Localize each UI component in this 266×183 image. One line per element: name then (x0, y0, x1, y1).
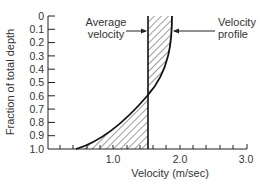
svg-text:0.2: 0.2 (29, 36, 44, 48)
svg-text:0.6: 0.6 (29, 90, 44, 102)
average-velocity-label-line2: velocity (88, 28, 125, 40)
velocity-profile-arrow (173, 29, 215, 34)
velocity-profile-label-line2: profile (218, 28, 248, 40)
svg-text:0.4: 0.4 (29, 63, 44, 75)
hatched-area-lower (76, 95, 148, 149)
svg-text:0.9: 0.9 (29, 129, 44, 141)
svg-text:1.0: 1.0 (106, 153, 121, 165)
y-tick-labels: 0 0.1 0.2 0.3 0.4 0.5 0.6 0.7 0.8 0.9 1.… (29, 10, 44, 155)
y-axis-title: Fraction of total depth (4, 29, 16, 135)
svg-text:0.7: 0.7 (29, 103, 44, 115)
x-tick-labels: 1.0 2.0 3.0 (106, 153, 254, 165)
average-velocity-arrow (126, 29, 147, 34)
svg-text:1.0: 1.0 (29, 143, 44, 155)
svg-text:0.8: 0.8 (29, 116, 44, 128)
y-axis (48, 16, 55, 149)
velocity-depth-chart: Average velocity Velocity profile 0 0.1 … (0, 0, 266, 183)
svg-text:0: 0 (38, 10, 44, 22)
svg-text:0.3: 0.3 (29, 50, 44, 62)
x-axis-title: Velocity (m/sec) (131, 167, 209, 179)
average-velocity-label-line1: Average (86, 16, 127, 28)
velocity-profile-label-line1: Velocity (218, 16, 256, 28)
svg-text:0.1: 0.1 (29, 23, 44, 35)
svg-text:0.5: 0.5 (29, 76, 44, 88)
svg-text:2.0: 2.0 (173, 153, 188, 165)
svg-text:3.0: 3.0 (239, 153, 254, 165)
